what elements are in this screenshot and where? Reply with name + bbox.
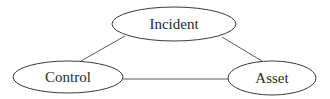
node-label: Asset [255, 70, 289, 86]
node-incident: Incident [112, 7, 236, 41]
edge-incident-control [81, 36, 125, 61]
diagram-canvas: Incident Control Asset [0, 0, 330, 99]
node-asset: Asset [228, 61, 316, 95]
node-label: Control [45, 69, 91, 85]
edge-incident-asset [222, 37, 262, 61]
node-label: Incident [149, 16, 199, 32]
node-control: Control [13, 61, 123, 93]
